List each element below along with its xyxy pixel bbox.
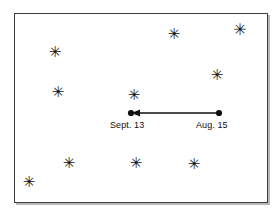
sky-field-frame <box>14 13 268 203</box>
retrograde-motion-figure: ✳ ✳ ✳ ✳ ✳ ✳ ✳ ✳ ✳ ✳ Sept. 13 Aug. 15 <box>0 0 280 213</box>
date-label-aug-15: Aug. 15 <box>196 120 228 130</box>
date-label-sept-13: Sept. 13 <box>110 120 144 130</box>
